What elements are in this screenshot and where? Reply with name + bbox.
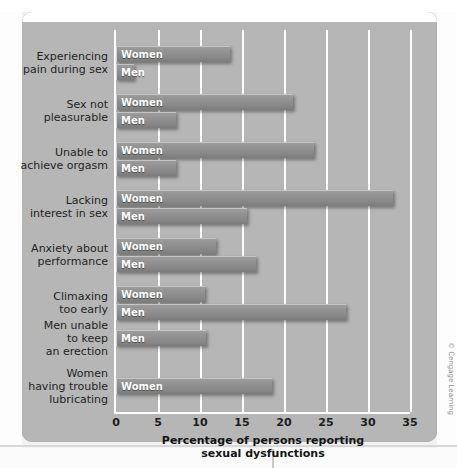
bar-series-label: Men [121,113,145,128]
bar-series-label: Men [121,331,145,346]
x-tick-label: 15 [234,416,249,429]
x-tick-label: 5 [154,416,162,429]
bar-men: Men [116,256,256,272]
category-label: Lacking interest in sex [0,194,108,220]
figure-panel: Experiencing pain during sexSex not plea… [22,12,437,442]
bar-men: Men [116,64,134,80]
x-tick-label: 20 [276,416,291,429]
page-margin-top [0,0,457,12]
category-label: Climaxing too early [0,290,108,316]
x-axis-line [114,412,410,414]
category-label: Anxiety about performance [0,242,108,268]
bar-women: Women [116,190,393,206]
category-label: Women having trouble lubricating [0,367,108,406]
bar-series-label: Men [121,209,145,224]
bar-women: Women [116,46,230,62]
x-axis-title: Percentage of persons reporting sexual d… [56,434,457,460]
bar-series-label: Women [121,379,163,394]
category-label: Unable to achieve orgasm [0,146,108,172]
figure-top-strip [22,12,437,22]
bar-series-label: Men [121,305,145,320]
bar-series-label: Women [121,239,163,254]
copyright-credit: © Cengage Learning [447,342,455,415]
bar-series-label: Women [121,47,163,62]
x-tick-label: 35 [402,416,417,429]
gridline [326,30,328,412]
bar-men: Men [116,330,206,346]
bar-series-label: Women [121,143,163,158]
category-label: Sex not pleasurable [0,98,108,124]
gridline [368,30,370,412]
x-tick-label: 30 [360,416,375,429]
bar-women: Women [116,238,216,254]
chart-plot-area: Experiencing pain during sexSex not plea… [114,30,410,412]
bar-series-label: Men [121,161,145,176]
x-tick-label: 25 [318,416,333,429]
bar-women: Women [116,94,293,110]
x-tick-label: 10 [192,416,207,429]
page-background: Experiencing pain during sexSex not plea… [0,0,457,468]
bar-series-label: Women [121,287,163,302]
bar-series-label: Women [121,191,163,206]
bar-men: Men [116,112,176,128]
bar-women: Women [116,286,205,302]
bar-men: Men [116,160,176,176]
bar-women: Women [116,142,314,158]
gridline [410,30,412,412]
bar-series-label: Women [121,95,163,110]
x-tick-label: 0 [112,416,120,429]
category-label: Experiencing pain during sex [0,50,108,76]
category-label: Men unable to keep an erection [0,319,108,358]
bar-men: Men [116,304,346,320]
bar-men: Men [116,208,247,224]
category-axis-labels: Experiencing pain during sexSex not plea… [0,30,108,412]
bar-women: Women [116,378,272,394]
bar-series-label: Men [121,65,145,80]
bar-series-label: Men [121,257,145,272]
gridline [284,30,286,412]
